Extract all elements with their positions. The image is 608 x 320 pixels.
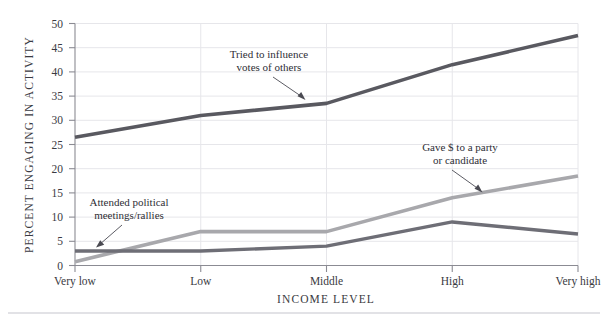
x-tick-marks xyxy=(75,266,578,273)
y-tick-label: 40 xyxy=(52,66,64,78)
y-tick-labels: 50 45 40 35 30 25 20 15 10 5 0 xyxy=(52,18,64,272)
y-tick-label: 5 xyxy=(57,235,63,247)
y-tick-label: 45 xyxy=(52,42,64,54)
y-axis-title: PERCENT ENGAGING IN ACTIVITY xyxy=(23,36,35,253)
annotation-line: votes of others xyxy=(237,61,302,73)
annotation-arrowhead-icon xyxy=(475,185,483,193)
y-tick-label: 20 xyxy=(52,163,64,175)
annotation-tried-to-influence: Tried to influence votes of others xyxy=(230,48,309,100)
annotation-line: Tried to influence xyxy=(230,48,309,60)
x-tick-label: Low xyxy=(190,275,212,287)
annotation-line: meetings/rallies xyxy=(94,209,164,221)
y-tick-label: 0 xyxy=(57,260,63,272)
x-axis-title: INCOME LEVEL xyxy=(277,293,375,305)
y-tick-label: 25 xyxy=(52,139,64,151)
annotation-line: Gave $ to a party xyxy=(422,141,498,153)
annotation-attended-meetings: Attended political meetings/rallies xyxy=(89,196,168,248)
y-tick-label: 30 xyxy=(52,114,64,126)
y-tick-label: 50 xyxy=(52,18,64,30)
annotation-line: Attended political xyxy=(89,196,168,208)
line-chart: 50 45 40 35 30 25 20 15 10 5 0 Very low … xyxy=(0,0,608,320)
annotation-line: or candidate xyxy=(433,154,487,166)
annotation-leader-line xyxy=(273,77,303,98)
y-tick-label: 35 xyxy=(52,90,64,102)
x-tick-label: Middle xyxy=(310,275,343,287)
y-tick-label: 10 xyxy=(52,211,64,223)
y-tick-marks xyxy=(69,24,75,266)
annotation-gave-money: Gave $ to a party or candidate xyxy=(422,141,498,193)
x-tick-label: High xyxy=(441,275,464,288)
y-tick-label: 15 xyxy=(52,187,64,199)
figure-canvas: 50 45 40 35 30 25 20 15 10 5 0 Very low … xyxy=(0,0,608,320)
x-tick-label: Very low xyxy=(54,275,97,288)
x-tick-labels: Very low Low Middle High Very high xyxy=(54,275,601,288)
annotation-leader-line xyxy=(452,170,480,190)
annotation-leader-line xyxy=(99,225,122,245)
x-tick-label: Very high xyxy=(555,275,600,288)
